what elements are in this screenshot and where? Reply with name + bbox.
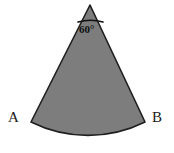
vertex-label-a: A xyxy=(8,110,19,125)
geometry-figure: 60° A B xyxy=(0,0,174,153)
vertex-label-b: B xyxy=(152,110,162,125)
apex-angle-label: 60° xyxy=(79,24,94,35)
